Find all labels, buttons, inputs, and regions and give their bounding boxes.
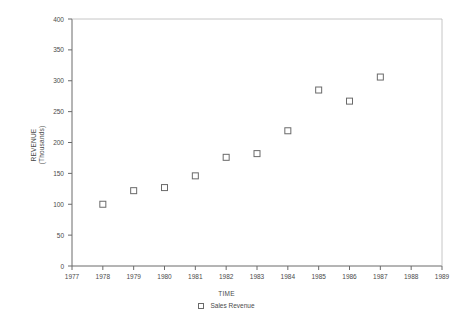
x-tick-label: 1982	[219, 273, 234, 280]
data-point-marker	[254, 151, 260, 157]
legend-marker-square-icon	[198, 303, 204, 309]
y-tick-label: 50	[57, 232, 65, 239]
x-tick-label: 1983	[250, 273, 265, 280]
x-tick-label: 1977	[65, 273, 80, 280]
data-point-marker	[285, 128, 291, 134]
x-axis-ticks: 1977197819791980198119821983198419851986…	[65, 266, 450, 280]
data-point-marker	[223, 154, 229, 160]
x-axis-title: TIME	[0, 290, 453, 297]
y-axis-title-line2: (Thousands)	[38, 100, 46, 190]
chart-legend: Sales Revenue	[0, 302, 453, 309]
plot-area: 050100150200250300350400 197719781979198…	[0, 0, 453, 322]
x-tick-label: 1981	[188, 273, 203, 280]
y-tick-label: 150	[53, 170, 64, 177]
data-point-marker	[347, 98, 353, 104]
data-point-marker	[316, 87, 322, 93]
y-tick-label: 350	[53, 46, 64, 53]
data-point-marker	[377, 74, 383, 80]
x-tick-label: 1989	[435, 273, 450, 280]
x-tick-label: 1980	[157, 273, 172, 280]
data-point-marker	[162, 185, 168, 191]
y-axis-title: REVENUE (Thousands)	[14, 100, 34, 190]
y-tick-label: 200	[53, 139, 64, 146]
x-tick-label: 1987	[373, 273, 388, 280]
y-axis-title-line1: REVENUE	[30, 100, 38, 190]
data-point-markers	[100, 74, 384, 207]
y-tick-label: 250	[53, 108, 64, 115]
axis-lines	[72, 19, 442, 266]
x-tick-label: 1985	[311, 273, 326, 280]
data-point-marker	[100, 201, 106, 207]
data-point-marker	[131, 188, 137, 194]
y-tick-label: 0	[60, 263, 64, 270]
data-point-marker	[192, 173, 198, 179]
legend-entry-label: Sales Revenue	[210, 302, 254, 309]
x-tick-label: 1978	[96, 273, 111, 280]
x-tick-label: 1988	[404, 273, 419, 280]
y-tick-label: 400	[53, 16, 64, 23]
y-tick-label: 100	[53, 201, 64, 208]
y-tick-label: 300	[53, 77, 64, 84]
x-tick-label: 1986	[342, 273, 357, 280]
x-tick-label: 1984	[281, 273, 296, 280]
x-tick-label: 1979	[126, 273, 141, 280]
y-axis-ticks: 050100150200250300350400	[53, 16, 72, 270]
scatter-chart: 050100150200250300350400 197719781979198…	[0, 0, 453, 322]
